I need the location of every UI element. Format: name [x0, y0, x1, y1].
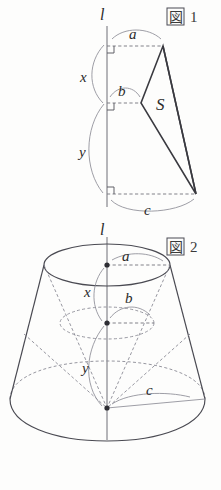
- figure-2-label-y: y: [80, 360, 89, 376]
- figure-2-slant-right: [170, 265, 205, 399]
- figure-2-center-dot-bottom: [104, 405, 109, 410]
- figure-1-label-a: a: [129, 26, 137, 42]
- figure-2-leader-b: [110, 307, 150, 318]
- figure-2-center-dot-middle: [104, 320, 109, 325]
- figure-1-leader-x: [92, 45, 104, 103]
- figure-2-leader-a: [112, 254, 163, 261]
- figure-1-drawing: a b c x y S l 図 1: [0, 0, 221, 490]
- figure-2-label-c: c: [146, 382, 153, 398]
- figure-2-tag-number: 2: [190, 239, 198, 255]
- figure-1-tag-kanji: 図: [169, 9, 183, 25]
- figure-1-leader-y: [89, 104, 104, 193]
- figure-2-center-dot-top: [104, 262, 109, 267]
- figure-2-inner-cone-left: [44, 265, 107, 408]
- figure-1-label-c: c: [144, 202, 151, 218]
- figure-1-leader-c: [111, 199, 194, 211]
- figure-2-label-x: x: [83, 284, 91, 300]
- figure-1-right-angle-bottom: [107, 187, 114, 194]
- figure-1-label-b: b: [118, 83, 126, 99]
- figure-2-leader-y: [89, 326, 104, 406]
- figure-1-label-s: S: [156, 95, 165, 114]
- figure-2-label-a: a: [122, 248, 130, 264]
- worksheet-page: a b c x y S l 図 1: [0, 0, 221, 490]
- figure-1-tag-number: 1: [190, 9, 198, 25]
- figure-2-tag-kanji: 図: [169, 239, 183, 255]
- figure-1-label-y: y: [77, 144, 86, 160]
- figure-2-inner-cone-right: [107, 265, 170, 408]
- figure-2-slant-left: [10, 265, 44, 399]
- figure-1-label-axis-l: l: [100, 6, 105, 23]
- figure-2-inner-generatrix-left: [24, 334, 107, 408]
- figure-1-leader-a: [112, 30, 161, 39]
- figure-2-radius-c-segment: [107, 399, 205, 408]
- figure-1-right-angle-top: [107, 46, 114, 53]
- figure-1-label-x: x: [79, 69, 87, 85]
- figure-1-outer-slant-edge: [163, 46, 196, 194]
- figure-2-label-b: b: [125, 290, 133, 306]
- figure-2-label-axis-l: l: [100, 221, 105, 238]
- figure-1-right-angle-middle: [107, 103, 114, 110]
- figure-2-leader-x: [94, 268, 104, 321]
